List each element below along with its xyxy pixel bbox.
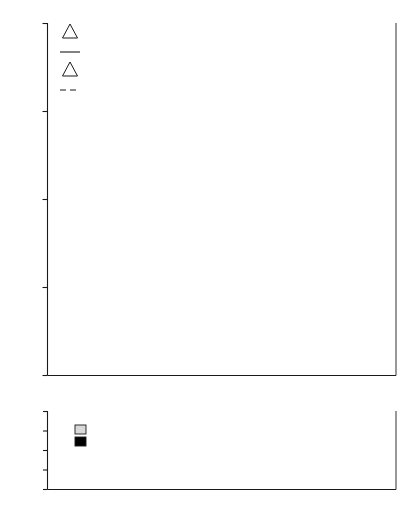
chart-canvas — [0, 0, 414, 517]
legend-marker-total-economic-losses — [63, 24, 78, 38]
legend-marker-other-disasters — [75, 437, 86, 446]
bottom-panel-axes — [43, 411, 396, 490]
figure-natural-disaster-losses — [0, 0, 414, 517]
legend-marker-earthquake-disasters — [75, 425, 86, 434]
top-panel-axes — [43, 23, 397, 376]
legend-marker-total-insured-losses — [63, 62, 78, 76]
top-legend — [60, 24, 80, 90]
bottom-legend — [75, 425, 86, 446]
